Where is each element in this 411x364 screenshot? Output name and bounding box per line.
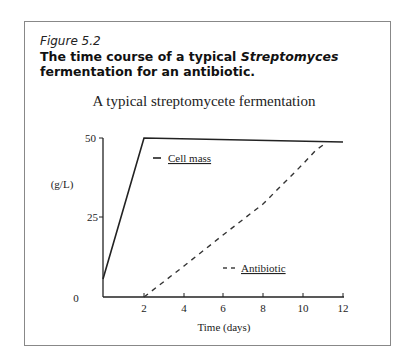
x-tick-label: 10 [298,302,310,314]
y-tick-label: 50 [85,132,97,144]
y-tick-label: 0 [73,292,79,304]
chart-title: A typical streptomycete fermentation [93,93,316,109]
x-tick-label: 12 [338,302,349,314]
x-tick-label: 2 [141,302,147,314]
legend-cell-mass: Cell mass [168,152,211,164]
x-tick-label: 8 [260,302,266,314]
x-tick-label: 4 [181,302,187,314]
x-axis-label: Time (days) [197,321,250,334]
y-tick-label: 25 [87,211,99,223]
y-axis-label: (g/L) [51,178,74,191]
x-tick-label: 6 [220,302,226,314]
chart: A typical streptomycete fermentation 50 … [0,0,411,364]
legend-antibiotic: Antibiotic [241,262,286,274]
series-antibiotic [144,143,326,297]
